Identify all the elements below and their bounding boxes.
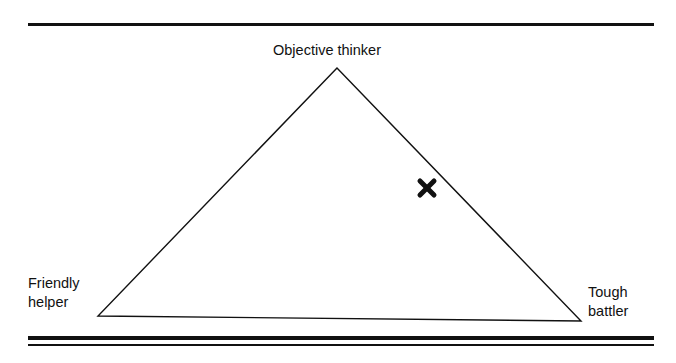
bottom-thin-rule — [28, 344, 654, 346]
triangle-diagram — [0, 0, 676, 363]
friendly-helper-line1: Friendly — [28, 274, 80, 293]
bottom-thick-rule — [28, 336, 654, 340]
tough-battler-line2: battler — [588, 302, 628, 321]
vertex-label-friendly-helper: Friendly helper — [28, 274, 80, 312]
triangle-shape — [98, 68, 581, 321]
tough-battler-line1: Tough — [588, 283, 628, 302]
vertex-label-tough-battler: Tough battler — [588, 283, 628, 321]
cross-marker-icon — [420, 181, 434, 195]
friendly-helper-line2: helper — [28, 293, 80, 312]
